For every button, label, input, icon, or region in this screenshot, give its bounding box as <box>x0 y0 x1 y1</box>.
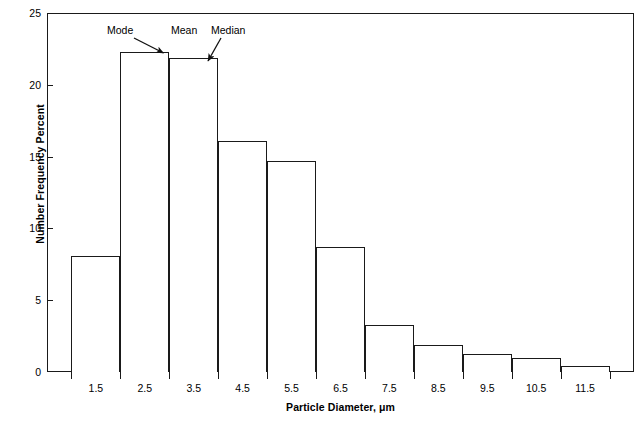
annotation-arrow-mode <box>0 0 644 423</box>
histogram-chart: 2520151050 Number Frequency Percent 1.52… <box>0 0 644 423</box>
